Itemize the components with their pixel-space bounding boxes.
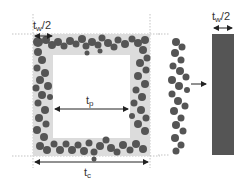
cell-wall-diagram: tw/2 tp tc tw/2	[0, 0, 245, 186]
label-pore-size: tp	[86, 94, 94, 108]
label-half-wall-right: tw/2	[212, 10, 230, 24]
label-cell-size: tc	[84, 166, 91, 180]
label-half-wall-left: tw/2	[33, 19, 51, 33]
equivalent-solid-wall	[212, 34, 234, 155]
unfolded-wall-strand	[168, 38, 190, 155]
